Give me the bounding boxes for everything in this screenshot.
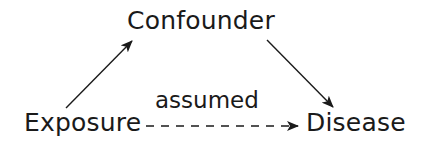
edge-confounder-to-disease bbox=[267, 40, 333, 107]
node-disease: Disease bbox=[306, 110, 406, 135]
edge-label-assumed: assumed bbox=[155, 89, 259, 112]
causal-diagram: Confounder Exposure Disease assumed bbox=[0, 0, 423, 146]
edge-exposure-to-confounder bbox=[66, 41, 132, 108]
node-confounder: Confounder bbox=[127, 8, 275, 33]
node-exposure: Exposure bbox=[24, 110, 141, 135]
